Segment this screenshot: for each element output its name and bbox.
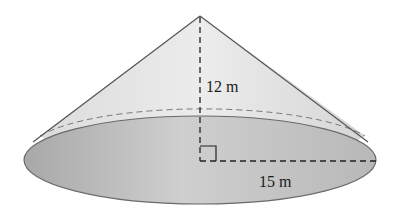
radius-label: 15 m: [259, 173, 292, 190]
cone-diagram: 12 m 15 m: [0, 0, 396, 216]
height-label: 12 m: [206, 78, 239, 95]
